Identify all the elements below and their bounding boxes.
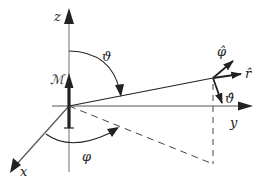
spherical-coordinates-diagram: z y x ℳ ϑ φ r̂ φ̂ ϑ̂ [0,0,266,184]
phi-angle-label: φ [82,149,92,164]
radius-vector [69,78,213,106]
phi-arc-arrowhead-icon [107,127,119,137]
z-axis-label: z [53,9,61,24]
x-axis-label: x [20,164,28,179]
theta-hat-label: ϑ̂ [225,91,234,106]
r-hat-label: r̂ [245,66,253,81]
y-axis-arrowhead-icon [238,102,253,111]
y-axis-label: y [229,115,238,130]
theta-angle-label: ϑ [102,49,111,64]
theta-hat-vector [213,78,222,103]
z-axis-arrowhead-icon [64,8,74,24]
x-axis [10,106,69,173]
phi-hat-label: φ̂ [217,44,227,59]
magnetic-moment-vector [64,73,74,128]
phi-angle-arc [46,127,119,143]
moment-arrowhead-icon [65,73,74,88]
moment-label: ℳ [50,72,66,87]
theta-angle-arc [69,51,124,97]
